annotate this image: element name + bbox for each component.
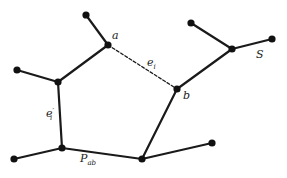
node-bottom-left-leaf — [10, 155, 17, 162]
graph-diagram: a b S ei e′i Pab — [0, 0, 287, 178]
node-left-leaf — [13, 66, 20, 73]
node-bottom-right-leaf — [208, 139, 215, 146]
node-b — [173, 85, 180, 92]
edge-bottom-left-leaf-bottom-left-node — [14, 148, 62, 159]
label-b: b — [183, 89, 190, 102]
label-a: a — [112, 29, 119, 42]
node-s-right-leaf — [268, 35, 275, 42]
node-s-node — [228, 45, 235, 52]
label-e-i-prime-sub: i — [50, 114, 52, 122]
label-e-i: ei — [147, 56, 156, 71]
label-e-i-prime-sup: ′ — [53, 107, 55, 115]
node-top-leaf — [82, 11, 89, 18]
edge-bottom-node-bottom-right-leaf — [142, 143, 212, 159]
edge-bottom-node-b — [142, 89, 177, 159]
node-bottom-left-node — [58, 144, 65, 151]
node-left-node — [54, 78, 61, 85]
label-e-i-sub: i — [154, 63, 156, 71]
edge-a-left-node — [58, 45, 108, 82]
edge-a-b — [108, 45, 177, 89]
label-p-ab-sub: ab — [87, 159, 96, 167]
edge-s-top-leaf-s-node — [191, 23, 232, 49]
edge-bottom-left-node-bottom-node — [62, 148, 142, 159]
edge-s-node-s-right-leaf — [232, 39, 272, 49]
edge-left-node-bottom-left-node — [58, 82, 62, 148]
label-s: S — [256, 48, 264, 61]
edge-top-leaf-a — [86, 15, 108, 45]
edge-b-s-node — [177, 49, 232, 89]
node-s-top-leaf — [187, 19, 194, 26]
label-e-i-prime: e′i — [46, 107, 55, 122]
node-bottom-node — [138, 155, 145, 162]
node-a — [104, 41, 111, 48]
edge-left-leaf-left-node — [17, 70, 58, 82]
label-p-ab: Pab — [79, 152, 97, 167]
